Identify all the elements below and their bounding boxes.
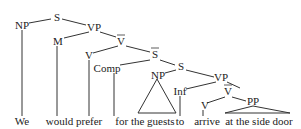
node-pp: PP <box>247 95 259 107</box>
node-s: S <box>178 60 184 72</box>
node-inf: Inf <box>174 85 187 97</box>
word-for-the-guests: for the guests <box>115 115 174 127</box>
word-arrive: arrive <box>194 115 220 127</box>
node-v-bar: V <box>117 35 125 47</box>
node-vp: VP <box>214 71 228 83</box>
tree-words: We would prefer for the guests to arrive… <box>15 115 293 127</box>
node-np: NP <box>15 19 29 31</box>
node-s: S <box>54 11 60 23</box>
word-to: to <box>176 115 185 127</box>
np-triangle <box>138 79 176 113</box>
syntax-tree: S NP VP M V V S Comp S NP VP Inf V V PP … <box>0 0 301 129</box>
node-comp: Comp <box>94 62 121 74</box>
word-we: We <box>15 115 30 127</box>
word-at-the-side-door: at the side door <box>225 115 293 127</box>
node-np: NP <box>151 69 165 81</box>
node-v: V <box>85 49 93 61</box>
tree-nodes: S NP VP M V V S Comp S NP VP Inf V V PP <box>15 11 259 111</box>
node-v: V <box>201 99 209 111</box>
node-v-bar: V <box>224 85 232 97</box>
node-m: M <box>53 35 63 47</box>
pp-triangle <box>225 106 290 113</box>
node-s-bar: S <box>152 48 158 60</box>
node-vp: VP <box>87 21 101 33</box>
word-would-prefer: would prefer <box>46 115 103 127</box>
